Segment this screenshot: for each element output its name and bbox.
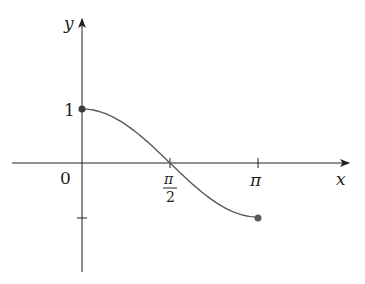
origin-label: 0 [60,168,71,188]
start-point [79,106,86,113]
x-tick-label-pi: π [249,170,262,190]
x-tick-label-pi-over-2-den: 2 [166,189,175,205]
y-axis-label: y [63,13,74,33]
x-tick-label-pi-over-2-num: π [163,171,174,187]
x-axis-label: x [336,169,346,189]
end-point [255,215,262,222]
cosine-graph: y x 1 0 π 2 π [0,0,365,284]
y-tick-label-1: 1 [64,100,75,120]
